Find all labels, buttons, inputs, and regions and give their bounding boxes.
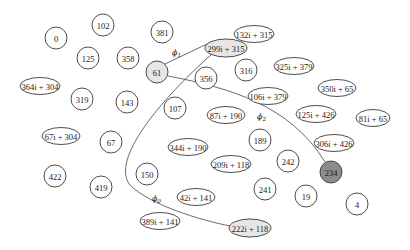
graph-node[interactable]: 319 [71, 88, 93, 110]
graph-node[interactable]: 143 [116, 91, 138, 113]
node-label: 102 [97, 21, 110, 31]
node-label: 67 [107, 138, 116, 148]
node-label: 306i + 426 [316, 139, 353, 149]
node-label: 389i + 141 [142, 217, 179, 227]
node-label: 125 [82, 54, 95, 64]
graph-node[interactable]: 132i + 315 [234, 26, 274, 43]
graph-node[interactable]: 61 [146, 61, 168, 83]
node-label: 358 [122, 54, 135, 64]
graph-node[interactable]: 189 [249, 129, 271, 151]
node-label: 209i + 118 [213, 160, 250, 170]
node-label: 241 [259, 185, 272, 195]
graph-node[interactable]: 299i + 315 [205, 39, 247, 57]
graph-node[interactable]: 350i + 65 [318, 80, 356, 97]
graph-node[interactable]: 234 [320, 161, 342, 183]
graph-node[interactable]: 344i + 190 [168, 139, 208, 156]
graph-diagram: 0102381132i + 315299i + 3151253586135631… [0, 0, 410, 250]
node-label: 422 [49, 172, 62, 182]
graph-node[interactable]: 422 [44, 165, 66, 187]
graph-node[interactable]: 102 [92, 14, 114, 36]
graph-node[interactable]: 0 [45, 27, 67, 49]
node-label: 107 [169, 104, 182, 114]
graph-node[interactable]: 125i + 426 [296, 106, 336, 123]
node-label: 344i + 190 [170, 143, 207, 153]
graph-node[interactable]: 356 [195, 67, 217, 89]
graph-node[interactable]: 125 [77, 47, 99, 69]
node-label: 42i + 141 [180, 193, 213, 203]
graph-node[interactable]: 87i + 190 [207, 107, 245, 124]
node-label: 381 [156, 28, 169, 38]
node-label: 81i + 65 [359, 114, 387, 124]
graph-node[interactable]: 67i + 304 [42, 128, 80, 145]
node-label: 356 [200, 74, 213, 84]
node-label: 364i + 304 [22, 82, 60, 92]
graph-node[interactable]: 107 [164, 97, 186, 119]
graph-node[interactable]: 106i + 379 [248, 88, 288, 105]
graph-node[interactable]: 209i + 118 [211, 156, 251, 173]
graph-node[interactable]: 242 [277, 150, 299, 172]
node-label: 125i + 426 [298, 110, 335, 120]
nodes-layer: 0102381132i + 315299i + 3151253586135631… [20, 14, 390, 237]
graph-node[interactable]: 150 [136, 163, 158, 185]
graph-node[interactable]: 19 [295, 185, 317, 207]
node-label: 325i + 379 [276, 62, 313, 72]
graph-node[interactable]: 381 [151, 21, 173, 43]
node-label: 61 [153, 68, 162, 78]
graph-node[interactable]: 42i + 141 [177, 189, 215, 206]
node-label: 106i + 379 [250, 92, 287, 102]
node-label: 132i + 315 [236, 30, 273, 40]
graph-node[interactable]: 67 [100, 131, 122, 153]
node-label: 222i + 118 [232, 224, 269, 234]
graph-node[interactable]: 222i + 118 [229, 219, 271, 237]
graph-node[interactable]: 419 [90, 176, 112, 198]
node-label: 87i + 190 [210, 111, 243, 121]
node-label: 143 [121, 98, 134, 108]
edge-label-phi1-label: ϕ1 [172, 48, 181, 58]
node-label: 150 [141, 170, 154, 180]
graph-node[interactable]: 364i + 304 [20, 78, 60, 95]
node-label: 299i + 315 [208, 44, 245, 54]
node-label: 319 [76, 95, 89, 105]
graph-node[interactable]: 316 [235, 59, 257, 81]
node-label: 0 [54, 34, 58, 44]
edge-label-phi0-label: ϕ0 [152, 194, 161, 204]
node-label: 67i + 304 [45, 132, 78, 142]
node-label: 242 [282, 157, 295, 167]
graph-node[interactable]: 241 [254, 178, 276, 200]
graph-node[interactable]: 306i + 426 [314, 135, 354, 152]
node-label: 316 [240, 66, 253, 76]
diagram-canvas: 0102381132i + 315299i + 3151253586135631… [0, 0, 410, 250]
graph-node[interactable]: 4 [346, 193, 368, 215]
graph-node[interactable]: 325i + 379 [274, 58, 314, 75]
edge-label-phi2-label: ϕ2 [257, 112, 266, 122]
node-label: 419 [95, 183, 108, 193]
graph-node[interactable]: 81i + 65 [356, 110, 390, 127]
node-label: 234 [325, 168, 339, 178]
node-label: 189 [254, 136, 267, 146]
graph-node[interactable]: 389i + 141 [140, 213, 180, 230]
node-label: 19 [302, 192, 311, 202]
graph-node[interactable]: 358 [117, 47, 139, 69]
node-label: 350i + 65 [321, 84, 354, 94]
